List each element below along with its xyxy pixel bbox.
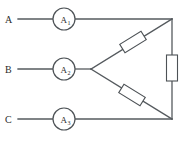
ammeter-a1-subscript: 1 <box>68 20 71 26</box>
terminal-label-b: B <box>5 64 12 75</box>
ammeter-a2: A 2 <box>53 58 75 80</box>
circuit-schematic-canvas: A 1 A 2 A 3 A B C <box>0 0 184 151</box>
terminal-label-c: C <box>5 114 12 125</box>
ammeter-a3-symbol: A <box>61 115 68 125</box>
ammeter-a2-subscript: 2 <box>68 70 71 76</box>
resistor-lower <box>119 84 146 106</box>
circuit-diagram: A 1 A 2 A 3 A B C <box>0 0 184 151</box>
resistor-upper <box>120 31 147 53</box>
terminal-label-a: A <box>5 14 13 25</box>
resistor-right <box>167 55 178 81</box>
ammeter-a1: A 1 <box>53 8 75 30</box>
ammeter-a3-subscript: 3 <box>68 120 71 126</box>
ammeter-a1-symbol: A <box>61 15 68 25</box>
ammeter-a3: A 3 <box>53 108 75 130</box>
ammeter-a2-symbol: A <box>61 65 68 75</box>
